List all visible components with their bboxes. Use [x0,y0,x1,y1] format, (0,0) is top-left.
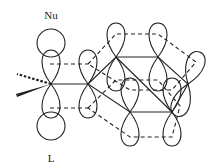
wedge-bond [16,84,51,97]
nucleophile-label: Nu [44,9,58,21]
pi-overlap-bottom [88,80,180,137]
nucleophile-orbital [37,29,65,57]
leaving-group-label: L [48,152,55,164]
pi-overlap-top [88,34,196,90]
leaving-group-orbital [37,112,65,140]
orbital-diagram: Nu L [0,0,221,168]
